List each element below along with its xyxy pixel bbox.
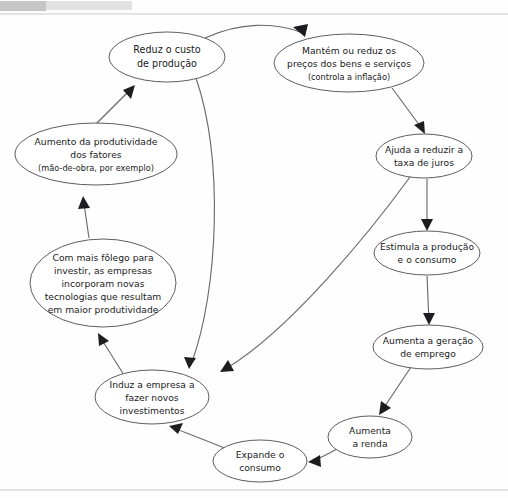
node-label-line: (controla a inflação) — [308, 72, 390, 82]
node-aumenta-renda[interactable]: Aumenta a renda — [328, 416, 412, 458]
node-estimula-producao[interactable]: Estimula a produção e o consumo — [374, 231, 480, 275]
node-label-line: a renda — [352, 438, 387, 449]
arrow-head — [421, 219, 433, 231]
edge-reduz-custo-to-precos — [205, 24, 308, 38]
diagram-page: Reduz o custo de produção Mantém ou redu… — [0, 0, 508, 498]
arrow-head — [414, 121, 425, 134]
node-label-line: Reduz o custo — [133, 44, 200, 55]
arrow-head — [169, 423, 183, 434]
arrow-head — [123, 85, 135, 99]
node-label-line: e o consumo — [398, 254, 457, 265]
node-com-mais-folego[interactable]: Com mais fôlego para investir, as empres… — [30, 239, 176, 327]
edge-induz-to-folego — [98, 333, 124, 375]
node-label-line: Expande o — [236, 449, 285, 460]
arrow-head — [184, 357, 196, 369]
node-expande-consumo[interactable]: Expande o consumo — [213, 440, 307, 482]
node-label-line: Mantém ou reduz os — [302, 45, 396, 56]
node-label-line: consumo — [239, 462, 281, 473]
edge-emprego-to-renda — [379, 367, 411, 415]
node-label-line: de emprego — [400, 348, 456, 359]
node-label-line: fazer novos — [125, 392, 179, 403]
edge-folego-to-produtividade — [78, 196, 90, 238]
node-label-line: de produção — [137, 58, 197, 69]
edge-juros-to-estimula — [421, 179, 433, 231]
node-label-line: incorporam novas — [62, 278, 145, 289]
node-induz-empresa[interactable]: Induz a empresa a fazer novos investimen… — [95, 370, 209, 424]
arrow-head — [308, 455, 321, 467]
node-label-line: dos fatores — [70, 149, 121, 160]
node-label-line: (mão-de-obra, por exemplo) — [38, 163, 154, 173]
arrow-head — [78, 196, 90, 209]
node-label-line: Aumenta — [349, 425, 391, 436]
node-label-line: tecnologias que resultam — [45, 291, 161, 302]
node-label-line: Estimula a produção — [380, 241, 475, 252]
node-label-line: taxa de juros — [394, 157, 454, 168]
header-chip-secondary — [46, 1, 132, 10]
node-label-line: Com mais fôlego para — [52, 252, 153, 263]
node-label-line: investir, as empresas — [54, 265, 152, 276]
node-label-line: Aumenta a geração — [383, 335, 474, 346]
node-label-line: Ajuda a reduzir a — [385, 144, 463, 155]
edge-estimula-to-emprego — [423, 276, 435, 325]
header-chip — [0, 1, 46, 11]
arrow-head — [379, 401, 391, 415]
node-label-line: Induz a empresa a — [109, 379, 194, 390]
edge-renda-to-consumo — [308, 449, 337, 467]
edge-precos-to-juros — [392, 88, 425, 134]
node-reduz-custo[interactable]: Reduz o custo de produção — [109, 32, 225, 82]
node-label-line: em maior produtividade — [48, 304, 159, 315]
node-mantem-reduz-precos[interactable]: Mantém ou reduz os preços dos bens e ser… — [274, 34, 424, 92]
node-aumenta-geracao-emprego[interactable]: Aumenta a geração de emprego — [373, 325, 483, 369]
edge-reduz-custo-to-induz — [184, 78, 214, 369]
node-label-line: preços dos bens e serviços — [287, 58, 411, 69]
node-label-line: Aumento da produtividade — [35, 136, 158, 147]
economic-cycle-diagram: Reduz o custo de produção Mantém ou redu… — [0, 0, 508, 498]
arrow-head — [220, 360, 234, 372]
edge-produtividade-to-reduz-custo — [96, 85, 135, 124]
edge-consumo-to-induz — [169, 423, 227, 449]
arrow-head — [98, 333, 109, 346]
node-label-line: investimentos — [120, 405, 185, 416]
node-ajuda-reduzir-juros[interactable]: Ajuda a reduzir a taxa de juros — [376, 134, 472, 178]
arrow-head — [423, 313, 435, 325]
node-aumento-produtividade[interactable]: Aumento da produtividade dos fatores (mã… — [15, 123, 177, 185]
